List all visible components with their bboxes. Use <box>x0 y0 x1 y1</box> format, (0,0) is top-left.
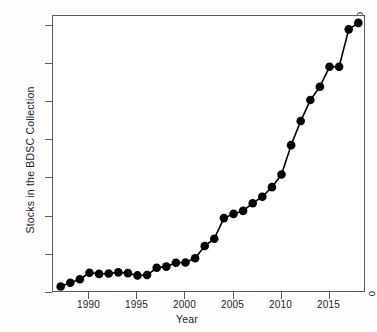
data-point-marker <box>114 268 123 277</box>
data-point-marker <box>210 234 219 243</box>
plot-area <box>52 15 365 292</box>
x-tick-label: 2005 <box>221 299 244 310</box>
series-markers <box>56 19 362 291</box>
data-point-marker <box>162 262 171 271</box>
x-tick-mark <box>136 292 137 299</box>
data-point-marker <box>143 271 152 280</box>
data-point-marker <box>268 183 277 192</box>
data-point-marker <box>220 214 229 223</box>
x-tick-label: 2015 <box>317 299 340 310</box>
data-point-marker <box>133 271 142 280</box>
y-tick-label-text: 0 <box>366 291 377 296</box>
x-tick-mark <box>281 292 282 299</box>
data-point-marker <box>85 268 94 277</box>
y-tick-mark <box>45 177 52 178</box>
y-axis-label: Stocks in the BDSC Collection <box>24 50 36 270</box>
y-tick-mark <box>45 254 52 255</box>
y-tick-mark <box>45 216 52 217</box>
data-point-marker <box>354 19 363 28</box>
data-point-marker <box>296 117 305 126</box>
data-point-marker <box>95 270 104 279</box>
x-tick-label: 2010 <box>269 299 292 310</box>
data-point-marker <box>191 254 200 263</box>
data-series-line-and-markers <box>53 16 366 293</box>
data-point-marker <box>104 269 113 278</box>
data-point-marker <box>248 199 257 208</box>
y-tick-mark <box>45 101 52 102</box>
data-point-marker <box>172 259 181 268</box>
data-point-marker <box>258 192 267 201</box>
data-point-marker <box>335 63 344 72</box>
data-point-marker <box>66 278 75 287</box>
data-point-marker <box>181 258 190 267</box>
data-point-marker <box>277 170 286 179</box>
x-axis-label: Year <box>0 313 374 325</box>
y-tick-mark <box>45 25 52 26</box>
x-tick-label: 1995 <box>125 299 148 310</box>
x-tick-mark <box>329 292 330 299</box>
x-tick-mark <box>233 292 234 299</box>
y-tick-mark <box>45 139 52 140</box>
data-point-marker <box>124 269 133 278</box>
data-point-marker <box>239 207 248 216</box>
data-point-marker <box>229 210 238 219</box>
data-point-marker <box>316 82 325 91</box>
data-point-marker <box>76 275 85 284</box>
y-tick-mark <box>45 63 52 64</box>
x-tick-label: 2000 <box>173 299 196 310</box>
x-tick-label: 1990 <box>77 299 100 310</box>
x-tick-mark <box>88 292 89 299</box>
data-point-marker <box>152 263 161 272</box>
data-point-marker <box>287 141 296 150</box>
series-line <box>61 23 359 287</box>
x-tick-mark <box>184 292 185 299</box>
data-point-marker <box>325 63 334 72</box>
data-point-marker <box>56 282 65 291</box>
y-tick-mark <box>45 292 52 293</box>
data-point-marker <box>200 242 209 251</box>
data-point-marker <box>306 96 315 105</box>
data-point-marker <box>344 25 353 34</box>
